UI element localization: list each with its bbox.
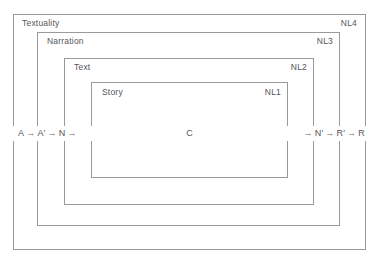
- text-box-top-edge: [64, 58, 314, 59]
- text-box-left-edge-upper: [64, 58, 65, 126]
- chain-node-n-prime: N′: [315, 129, 324, 138]
- textuality-box-level-label: NL4: [341, 19, 357, 28]
- story-box-left-edge-upper: [91, 82, 92, 126]
- story-box-left-edge-lower: [91, 141, 92, 178]
- story-box-name-label: Story: [102, 88, 123, 97]
- text-box-left-edge-lower: [64, 141, 65, 205]
- chain-right-sequence: → N′ → R′ → R: [302, 126, 366, 140]
- story-box-right-edge-upper: [287, 82, 288, 126]
- narration-box-left-edge-upper: [37, 32, 38, 126]
- textuality-box-top-edge: [13, 14, 366, 15]
- narration-box-name-label: Narration: [47, 37, 84, 46]
- narrative-levels-diagram: Textuality NL4 Narration NL3 Text NL2 St…: [0, 0, 379, 264]
- narration-box-right-edge-lower: [339, 141, 340, 226]
- narration-box-right-edge-upper: [339, 32, 340, 126]
- chain-node-c: C: [186, 128, 193, 138]
- textuality-box-name-label: Textuality: [22, 19, 59, 28]
- story-box-top-edge: [91, 82, 288, 83]
- chain-arrow-c-to-np: →: [302, 129, 315, 138]
- textuality-box-right-edge-lower: [365, 141, 366, 250]
- textuality-box-bottom-edge: [13, 249, 366, 250]
- chain-arrow-np-to-rp: →: [323, 129, 336, 138]
- chain-node-r: R: [358, 129, 365, 138]
- chain-arrow-rp-to-r: →: [345, 129, 358, 138]
- story-box-bottom-edge: [91, 177, 288, 178]
- text-box-right-edge-upper: [313, 58, 314, 126]
- narration-box-top-edge: [37, 32, 340, 33]
- story-box-right-edge-lower: [287, 141, 288, 178]
- narration-box-level-label: NL3: [317, 37, 333, 46]
- text-box-level-label: NL2: [291, 63, 307, 72]
- narration-box-bottom-edge: [37, 225, 340, 226]
- text-box-right-edge-lower: [313, 141, 314, 205]
- text-box-name-label: Text: [74, 63, 90, 72]
- textuality-box-left-edge-lower: [13, 141, 14, 250]
- story-box-level-label: NL1: [265, 88, 281, 97]
- text-box-bottom-edge: [64, 204, 314, 205]
- chain-node-r-prime: R′: [337, 129, 346, 138]
- textuality-box-left-edge-upper: [13, 14, 14, 126]
- textuality-box-right-edge-upper: [365, 14, 366, 126]
- narration-box-left-edge-lower: [37, 141, 38, 226]
